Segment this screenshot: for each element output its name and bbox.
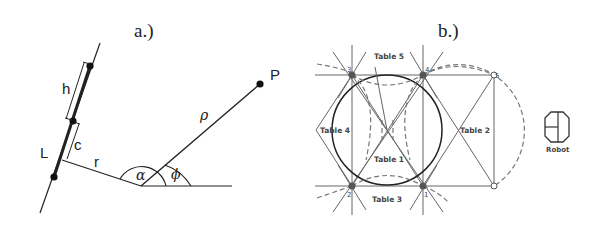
- node-label-3: 3: [347, 66, 351, 74]
- label-phi: ϕ: [171, 166, 181, 182]
- table-2-label: Table 2: [460, 126, 490, 135]
- node-1: [420, 183, 427, 190]
- panel-b: b.): [315, 20, 570, 215]
- node-label-2: 2: [347, 191, 351, 199]
- table-5-label: Table 5: [374, 52, 404, 61]
- node-6: [491, 183, 497, 189]
- label-r: r: [94, 153, 99, 170]
- label-h: h: [62, 80, 70, 97]
- label-L: L: [40, 144, 48, 161]
- panel-a: a.) h c L r P ρ: [40, 20, 280, 213]
- label-rho: ρ: [199, 107, 209, 123]
- node-label-5: 5: [495, 72, 499, 80]
- point-L-bottom: [50, 173, 57, 180]
- table-4-label: Table 4: [320, 126, 350, 135]
- point-L-middle: [69, 117, 76, 124]
- rho-line: [141, 84, 260, 186]
- robot-label: Robot: [546, 146, 570, 154]
- table-3-label: Table 3: [372, 195, 402, 204]
- panel-b-label: b.): [438, 20, 459, 42]
- figure: a.) h c L r P ρ: [0, 0, 607, 225]
- label-P: P: [270, 66, 280, 83]
- label-alpha: α: [136, 167, 146, 183]
- label-c: c: [74, 136, 82, 153]
- table-1-label: Table 1: [374, 155, 404, 164]
- perpendicular-r: [62, 160, 141, 186]
- node-2: [349, 183, 356, 190]
- node-label-4: 4: [425, 66, 430, 74]
- panel-a-label: a.): [134, 20, 154, 42]
- robot-icon: [545, 112, 569, 142]
- node-label-1: 1: [424, 191, 428, 199]
- point-P: [256, 80, 263, 87]
